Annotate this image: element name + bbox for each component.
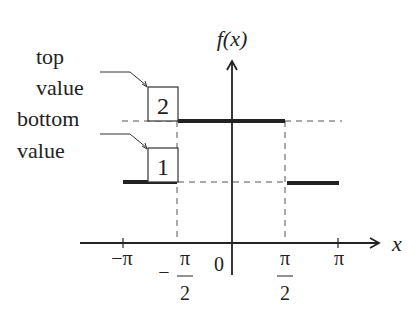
tick-label-pi-half-numerator: π [280, 247, 290, 269]
tick-label-pi-half-denominator: 2 [280, 282, 290, 304]
top-value-number: 2 [157, 93, 169, 119]
top-leader-arrow [100, 72, 147, 86]
origin-label: 0 [214, 253, 224, 275]
axes [80, 61, 379, 275]
leader-arrows [100, 72, 147, 149]
y-axis-label: f(x) [217, 26, 248, 51]
tick-label-neg-pi-half-numerator: π [180, 247, 190, 269]
tick-label-neg-pi-half-sign: − [158, 261, 169, 283]
tick-label-neg-pi: −π [111, 247, 132, 269]
tick-label-neg-pi-half: − π 2 [158, 247, 193, 304]
step-function-diagram: 2 1 top value bottom value f(x) x 0 −π −… [0, 0, 419, 322]
top-label-line1: top [36, 44, 64, 69]
bottom-label-line2: value [17, 138, 65, 163]
tick-label-pi-half: π 2 [277, 247, 293, 304]
bottom-leader-arrow [100, 134, 147, 148]
top-label-line2: value [36, 75, 84, 100]
x-axis-label: x [391, 231, 402, 256]
tick-label-neg-pi-half-denominator: 2 [180, 282, 190, 304]
tick-label-pi: π [334, 247, 344, 269]
bottom-label-line1: bottom [17, 106, 79, 131]
bottom-value-number: 1 [157, 154, 169, 180]
